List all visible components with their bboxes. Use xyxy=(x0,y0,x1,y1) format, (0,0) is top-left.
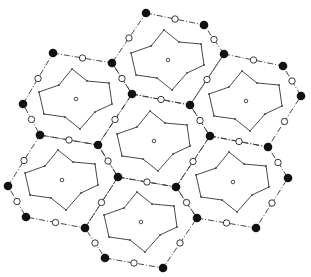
inner-vertex-dot xyxy=(65,209,67,211)
open-mid-edge-node xyxy=(105,158,111,164)
center-circle xyxy=(166,58,170,62)
filled-vertex-node xyxy=(142,9,151,18)
inner-vertex-dot xyxy=(157,170,159,172)
inner-vertex-dot xyxy=(94,111,96,113)
inner-vertex-dot xyxy=(268,186,270,188)
inner-vertex-dot xyxy=(278,84,280,86)
filled-vertex-node xyxy=(114,173,123,182)
inner-vertex-dot xyxy=(256,82,258,84)
inner-vertex-dot xyxy=(97,184,99,186)
inner-vertex-dot xyxy=(38,91,40,93)
filled-vertex-node xyxy=(94,141,103,150)
inner-vertex-dot xyxy=(228,86,230,88)
filled-vertex-node xyxy=(159,264,168,273)
filled-vertex-node xyxy=(128,90,137,99)
filled-vertex-node xyxy=(284,174,293,183)
open-mid-edge-node xyxy=(21,157,27,163)
inner-vertex-dot xyxy=(108,82,110,84)
inner-vertex-dot xyxy=(130,52,132,54)
inner-vertex-dot xyxy=(29,194,31,196)
inner-vertex-dot xyxy=(265,165,267,167)
inner-vertex-dot xyxy=(71,68,73,70)
filled-vertex-node xyxy=(206,132,215,141)
filled-vertex-node xyxy=(49,49,58,58)
filled-vertex-node xyxy=(172,183,181,192)
inner-vertex-dot xyxy=(43,113,45,115)
inner-vertex-dot xyxy=(103,214,105,216)
open-mid-edge-node xyxy=(183,199,189,205)
open-mid-edge-node xyxy=(92,240,98,246)
inner-vertex-dot xyxy=(264,113,266,115)
inner-vertex-dot xyxy=(151,203,153,205)
cell-lower-right xyxy=(195,151,270,213)
filled-vertex-node xyxy=(186,101,195,110)
open-mid-edge-node xyxy=(275,159,281,165)
filled-vertex-node xyxy=(264,143,273,152)
inner-vertex-dot xyxy=(236,211,238,213)
open-mid-edge-node xyxy=(52,219,58,225)
inner-vertex-dot xyxy=(94,163,96,165)
filled-vertex-node xyxy=(108,59,117,68)
inner-vertex-dot xyxy=(159,234,161,236)
open-mid-edge-node xyxy=(131,260,137,266)
inner-vertex-dot xyxy=(57,149,59,151)
filled-vertex-node xyxy=(81,224,90,233)
open-mid-edge-node xyxy=(14,198,20,204)
cell-lower-left xyxy=(24,149,99,211)
inner-vertex-dot xyxy=(251,194,253,196)
inner-vertex-dot xyxy=(163,29,165,31)
cell-middle xyxy=(116,110,191,172)
center-circle xyxy=(231,180,235,184)
inner-vertex-dot xyxy=(129,239,131,241)
filled-vertex-node xyxy=(36,131,45,140)
open-mid-edge-node xyxy=(66,137,72,143)
inner-vertex-dot xyxy=(195,174,197,176)
inner-vertex-dot xyxy=(164,122,166,124)
filled-vertex-node xyxy=(279,62,288,71)
center-circle xyxy=(60,178,64,182)
inner-vertex-dot xyxy=(234,118,236,120)
open-mid-edge-node xyxy=(190,158,196,164)
open-mid-edge-node xyxy=(119,75,125,81)
open-mid-edge-node xyxy=(98,199,104,205)
inner-vertex-dot xyxy=(108,236,110,238)
inner-vertex-dot xyxy=(135,74,137,76)
filled-vertex-node xyxy=(101,254,110,263)
cell-upper-left xyxy=(38,68,113,130)
open-mid-edge-node xyxy=(281,118,287,124)
inner-vertex-dot xyxy=(249,130,251,132)
open-mid-edge-node xyxy=(79,55,85,61)
open-mid-edge-node xyxy=(158,96,164,102)
inner-vertex-dot xyxy=(136,191,138,193)
open-mid-edge-node xyxy=(204,76,210,82)
cell-upper-right xyxy=(208,70,283,132)
inner-vertex-dot xyxy=(72,161,74,163)
inner-vertex-dot xyxy=(203,64,205,66)
inner-vertex-dot xyxy=(44,165,46,167)
filled-vertex-node xyxy=(297,92,306,101)
open-mid-edge-node xyxy=(223,220,229,226)
inner-vertex-dot xyxy=(228,151,230,153)
inner-vertex-dot xyxy=(150,45,152,47)
inner-vertex-dot xyxy=(215,167,217,169)
open-mid-edge-node xyxy=(250,57,256,63)
filled-vertex-node xyxy=(193,214,202,223)
inner-vertex-dot xyxy=(58,84,60,86)
inner-vertex-dot xyxy=(241,70,243,72)
cell-bottom xyxy=(103,191,178,253)
cell-top xyxy=(130,29,205,91)
open-mid-edge-node xyxy=(236,138,242,144)
inner-vertex-dot xyxy=(221,199,223,201)
inner-vertex-dot xyxy=(186,124,188,126)
center-circle xyxy=(139,220,143,224)
inner-vertex-dot xyxy=(144,251,146,253)
inner-vertex-dot xyxy=(208,93,210,95)
open-mid-edge-node xyxy=(289,78,295,84)
center-circle xyxy=(152,139,156,143)
inner-vertex-dot xyxy=(111,103,113,105)
filled-vertex-node xyxy=(19,100,28,109)
open-mid-edge-node xyxy=(112,116,118,122)
filled-vertex-node xyxy=(252,224,261,233)
center-circle xyxy=(244,99,248,103)
inner-vertex-dot xyxy=(281,105,283,107)
